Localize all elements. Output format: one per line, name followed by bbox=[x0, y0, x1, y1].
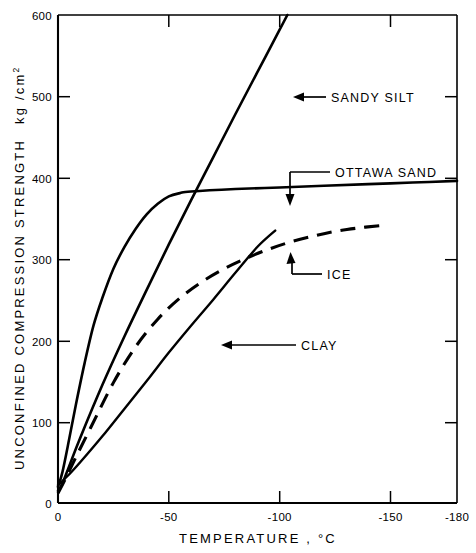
sandy-silt-label: SANDY SILT bbox=[331, 91, 415, 105]
curve-ice bbox=[58, 226, 379, 494]
y-axis-ticks bbox=[58, 97, 70, 423]
clay-arrowhead-icon bbox=[221, 341, 232, 350]
clay-label: CLAY bbox=[301, 339, 338, 353]
x-tick-label-minus150: -150 bbox=[378, 511, 402, 523]
curve-clay bbox=[58, 231, 275, 486]
y-axis-units-group: kg /cm2 bbox=[11, 66, 27, 124]
annotation-clay: CLAY bbox=[221, 339, 338, 353]
y-axis-units-text: kg /cm bbox=[12, 73, 27, 124]
ottawa-sand-arrowhead-icon bbox=[286, 194, 295, 206]
chart-canvas: 600 500 400 300 200 100 0 0 -50 -100 -15… bbox=[0, 0, 476, 553]
y-axis-title: UNCONFINED COMPRESSION STRENGTH bbox=[12, 139, 27, 470]
x-tick-label-minus100: -100 bbox=[268, 511, 292, 523]
annotation-sandy-silt: SANDY SILT bbox=[293, 91, 415, 105]
x-tick-label-minus180: -180 bbox=[445, 511, 469, 523]
annotation-ice: ICE bbox=[287, 252, 352, 282]
x-axis-title: TEMPERATURE , °C bbox=[179, 531, 337, 546]
y-axis-title-group: UNCONFINED COMPRESSION STRENGTH bbox=[12, 139, 27, 470]
ottawa-sand-label: OTTAWA SAND bbox=[335, 166, 437, 180]
x-tick-label-minus50: -50 bbox=[160, 511, 178, 523]
y-tick-label-200: 200 bbox=[32, 336, 52, 348]
y-tick-label-500: 500 bbox=[32, 91, 52, 103]
y-axis-units-superscript: 2 bbox=[11, 66, 21, 73]
y-tick-label-600: 600 bbox=[32, 10, 52, 22]
y-tick-label-400: 400 bbox=[32, 173, 52, 185]
x-axis-ticks-top bbox=[169, 15, 391, 27]
sandy-silt-arrowhead-icon bbox=[293, 93, 304, 102]
ice-arrowhead-icon bbox=[287, 252, 296, 264]
x-axis-ticks bbox=[169, 491, 391, 503]
x-tick-label-0: 0 bbox=[55, 511, 62, 523]
chart-figure: 600 500 400 300 200 100 0 0 -50 -100 -15… bbox=[0, 0, 476, 553]
ice-label: ICE bbox=[327, 268, 351, 282]
y-axis-units: kg /cm2 bbox=[11, 66, 27, 124]
y-tick-label-300: 300 bbox=[32, 254, 52, 266]
y-axis-ticks-right bbox=[445, 97, 457, 423]
y-tick-label-100: 100 bbox=[32, 417, 52, 429]
y-tick-label-0: 0 bbox=[45, 498, 52, 510]
curve-ottawa-sand bbox=[58, 181, 457, 487]
